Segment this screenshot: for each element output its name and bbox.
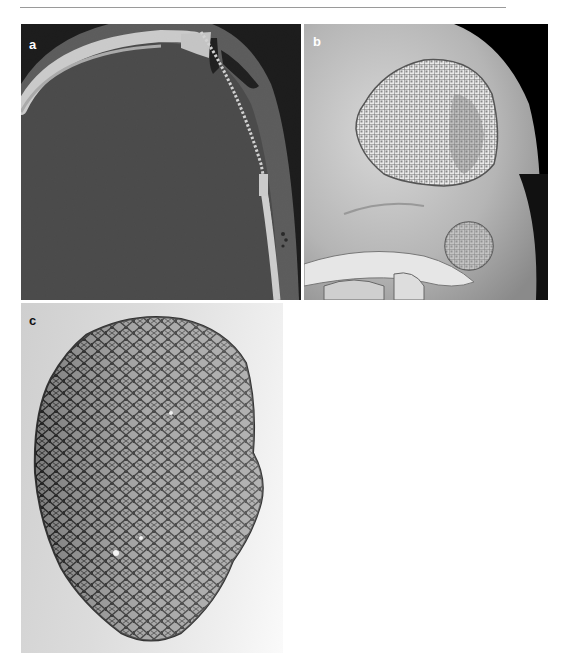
header-rule <box>20 7 506 8</box>
panel-label-a: a <box>29 38 36 51</box>
titanium-mesh-photo <box>21 303 283 653</box>
figure-panel-a: a <box>21 24 301 300</box>
figure-panel-b: b <box>304 24 548 300</box>
ct-scan-image <box>21 24 301 300</box>
skull-3d-render-image <box>304 24 548 300</box>
panel-label-c: c <box>29 314 36 327</box>
figure-panel-c: c <box>21 303 283 653</box>
panel-label-b: b <box>313 35 321 48</box>
running-head <box>20 0 506 6</box>
